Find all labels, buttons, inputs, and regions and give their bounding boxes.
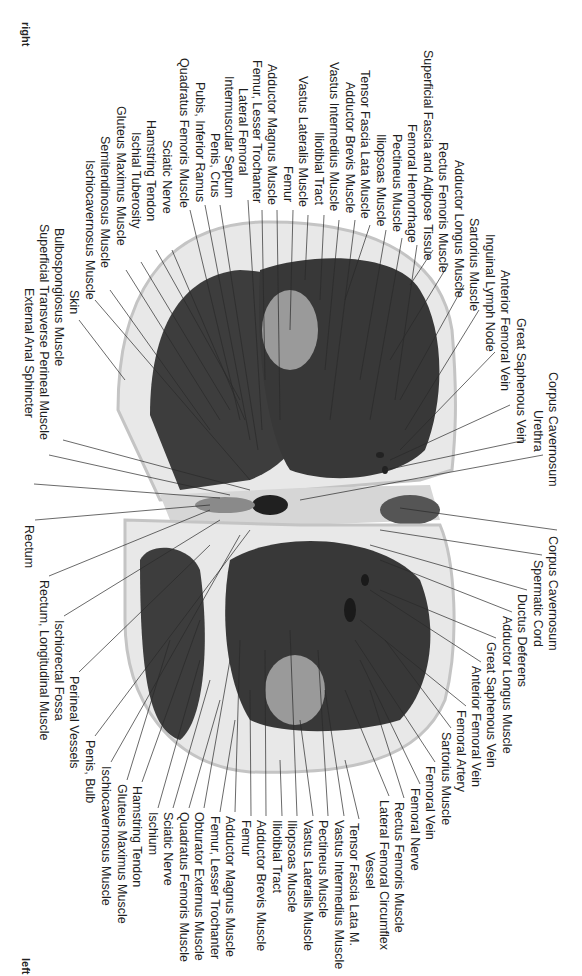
label-lateral-femoral: Lateral Femoral [236,88,249,176]
label-femur-lesser-trochanter-l: Femur, Lesser Trochanter [208,816,221,959]
label-lateral-femoral-circumflex: Lateral Femoral Circumflex [377,800,390,950]
label-corpus-cavernosum-l: Corpus Cavernosum [546,536,559,651]
label-ischiocavernosus-r: Ischiocavernosus Muscle [83,160,96,300]
label-femur-lesser-trochanter-r: Femur, Lesser Trochanter [250,60,263,203]
label-femur-r: Femur [281,166,294,202]
label-pectineus-l: Pectineus Muscle [316,820,329,918]
right-thigh-section [118,222,455,500]
label-adductor-longus-r: Adductor Longus Muscle [452,160,465,298]
label-intermuscular-septum: Intermuscular Septum [222,76,235,198]
label-femoral-vein: Femoral Vein [423,766,436,840]
label-vessel: Vessel [363,852,376,889]
label-tensor-fascia-lata-l: Tensor Fascia Lata M. [347,823,360,946]
label-superficial-transverse-perineal: Superficial Transverse Perineal Muscle [37,224,50,440]
label-femoral-artery: Femoral Artery [454,710,467,792]
label-penis-bulb: Penis, Bulb [83,740,96,803]
label-sciatic-nerve-l: Sciatic Nerve [161,812,174,886]
label-external-anal-sphincter: External Anal Sphincter [22,288,35,418]
label-pectineus-r: Pectineus Muscle [390,134,403,232]
label-vastus-intermedius-l: Vastus Intermedius Muscle [332,820,345,969]
label-rectus-femoris-r: Rectus Femoris Muscle [436,142,449,273]
label-anterior-femoral-vein-r: Anterior Femoral Vein [498,270,511,391]
label-pubis-inferior-ramus: Pubis, Inferior Ramus [193,82,206,202]
label-perineal-vessels: Perineal Vessels [67,676,80,768]
label-tensor-fascia-lata-r: Tensor Fascia Lata Muscle [358,70,371,219]
label-bulbospongiosus: Bulbospongiosus Muscle [52,228,65,366]
label-adductor-brevis-r: Adductor Brevis Muscle [343,82,356,213]
label-inguinal-lymph-node: Inguinal Lymph Node [483,234,496,352]
label-penis-crus: Penis, Crus [208,133,221,198]
label-adductor-longus-l: Adductor Longus Muscle [500,616,513,754]
label-semitendinosus: Semitendinosus Muscle [98,136,111,268]
label-femoral-hemorrhage: Femoral Hemorrhage [405,124,418,243]
label-hamstring-tendon-l: Hamstring Tendon [130,786,143,887]
label-femoral-nerve: Femoral Nerve [408,788,421,871]
label-iliotibial-tract-r: Iliotibial Tract [312,132,325,205]
label-great-saphenous-r: Great Saphenous Vein [514,318,527,444]
label-adductor-brevis-l: Adductor Brevis Muscle [254,820,267,951]
label-sciatic-nerve-r: Sciatic Nerve [160,140,173,214]
label-spermatic-cord: Spermatic Cord [531,560,544,647]
label-femur-l: Femur [239,820,252,856]
label-iliotibial-tract-l: Iliotibial Tract [270,820,283,893]
label-vastus-lateralis-r: Vastus Lateralis Muscle [296,76,309,207]
label-hamstring-tendon-r: Hamstring Tendon [144,120,157,221]
label-ischium: Ischium [146,812,159,855]
label-urethra: Urethra [531,410,544,452]
label-skin: Skin [67,290,80,314]
label-great-saphenous-l: Great Saphenous Vein [484,642,497,768]
label-vastus-intermedius-r: Vastus Intermedius Muscle [327,62,340,211]
label-adductor-magnus-r: Adductor Magnus Muscle [265,64,278,205]
label-sartorius-r: Sartorius Muscle [467,218,480,311]
label-adductor-magnus-l: Adductor Magnus Muscle [223,816,236,957]
label-ischiorectal-fossa: Ischiorectal Fossa [52,620,65,721]
label-rectum-longitudinal-muscle: Rectum, Longitudinal Muscle [37,580,50,741]
label-sartorius-l: Sartorius Muscle [439,732,452,825]
label-gluteus-maximus-r: Gluteus Maximus Muscle [114,106,127,246]
left-thigh-section [125,520,454,772]
label-rectus-femoris-l: Rectus Femoris Muscle [392,802,405,933]
label-vastus-lateralis-l: Vastus Lateralis Muscle [301,820,314,951]
label-iliopsoas-l: Iliopsoas Muscle [285,820,298,912]
label-superficial-fascia: Superficial Fascia and Adipose Tissue [421,50,434,261]
label-ischiocavernosus-l: Ischiocavernosus Muscle [99,766,112,906]
label-quadratus-femoris-r: Quadratus Femoris Muscle [177,58,190,208]
label-iliopsoas-r: Iliopsoas Muscle [374,134,387,226]
label-ischial-tuberosity: Ischial Tuberosity [129,132,142,229]
label-obturator-externus: Obturator Externus Muscle [192,812,205,961]
label-corpus-cavernosum-r: Corpus Cavernosum [546,372,559,487]
label-gluteus-maximus-l: Gluteus Maximus Muscle [115,784,128,924]
label-anterior-femoral-vein-l: Anterior Femoral Vein [469,666,482,787]
label-ductus-deferens: Ductus Deferens [515,594,528,687]
label-quadratus-femoris-l: Quadratus Femoris Muscle [177,812,190,962]
label-rectum: Rectum [22,525,35,568]
